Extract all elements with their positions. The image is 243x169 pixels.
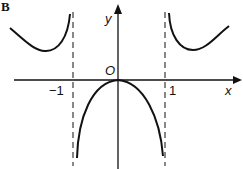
graph-canvas: [0, 0, 243, 169]
y-axis-label: y: [105, 12, 112, 25]
x-axis-arrow-icon: [233, 76, 242, 84]
origin-label: O: [105, 64, 115, 77]
y-axis-arrow-icon: [114, 4, 122, 14]
curve-left-branch: [10, 14, 70, 51]
x-axis-label: x: [225, 84, 232, 97]
curve-middle-branch: [77, 80, 163, 158]
tick-label-pos-1: 1: [169, 84, 176, 97]
panel-label: B: [1, 0, 10, 13]
tick-label-neg-1: −1: [49, 84, 64, 97]
curve-right-branch: [169, 13, 229, 50]
